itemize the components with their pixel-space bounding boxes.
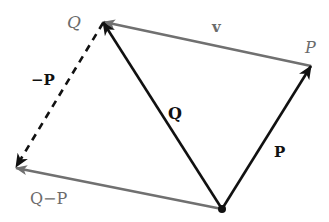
label-vector-q-minus-p: Q−P [30,191,67,207]
label-vector-q: Q [168,106,182,122]
vector-diagram: Q P v −P Q P Q−P [0,0,329,222]
label-point-p: P [305,40,316,56]
origin-dot [218,205,226,213]
vector-p-arrow [222,66,311,209]
label-vector-v: v [212,20,221,35]
label-vector-p: P [274,145,285,160]
vector-v-arrow [104,22,311,66]
label-vector-neg-p: −P [31,73,55,88]
vector-q-arrow [103,22,222,209]
vector-neg-p-arrow [16,23,103,167]
label-point-q: Q [67,14,81,31]
